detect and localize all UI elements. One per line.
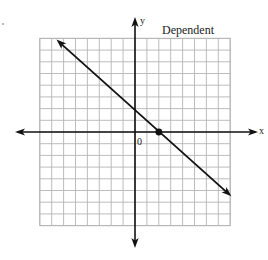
x-axis-label: x [259, 125, 264, 136]
intercept-point [155, 129, 162, 136]
stray-mark [2, 23, 4, 25]
origin-label: 0 [137, 136, 142, 147]
coordinate-plane-chart: Dependent x y 0 [0, 0, 268, 260]
y-axis-label: y [140, 15, 145, 26]
chart-title: Dependent [162, 23, 215, 37]
